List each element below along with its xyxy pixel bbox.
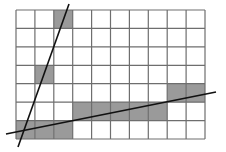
shaded-cell	[129, 102, 148, 120]
shaded-cell	[186, 84, 205, 102]
shaded-cell	[92, 102, 111, 120]
shaded-cell	[35, 121, 54, 139]
grid-diagram	[0, 0, 226, 152]
